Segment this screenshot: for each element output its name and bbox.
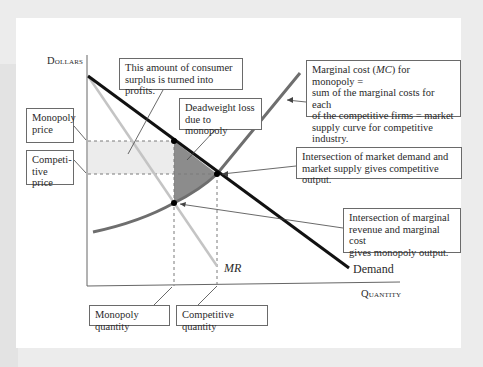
monopoly-output-note: Intersection of marginal revenue and mar… bbox=[343, 208, 461, 253]
x-axis bbox=[87, 282, 400, 286]
competitive-equilibrium-point bbox=[214, 171, 220, 177]
monopoly-price-point bbox=[171, 138, 177, 144]
competitive-price-label: Competi- tive price bbox=[26, 150, 74, 185]
demand-label: Demand bbox=[353, 262, 394, 277]
competitive-quantity-label: Competitive quantity bbox=[176, 305, 268, 326]
deadweight-loss-area bbox=[174, 141, 217, 203]
monopoly-price-label: Monopoly price bbox=[26, 108, 74, 143]
profit-area bbox=[88, 141, 174, 174]
deadweight-loss-note: Deadweight loss due to monopoly bbox=[179, 98, 262, 130]
mr-label: MR bbox=[224, 261, 241, 276]
consumer-surplus-note: This amount of consumer surplus is turne… bbox=[119, 58, 243, 90]
marginal-cost-note: Marginal cost (MC) for monopoly = sum of… bbox=[306, 60, 461, 117]
monopoly-quantity-label: Monopoly quantity bbox=[89, 305, 170, 326]
mr-mc-intersection-point bbox=[171, 200, 177, 206]
y-axis-label: Dollars bbox=[47, 55, 83, 66]
competitive-output-note: Intersection of market demand and market… bbox=[296, 147, 462, 179]
x-axis-label: Quantity bbox=[361, 288, 401, 299]
